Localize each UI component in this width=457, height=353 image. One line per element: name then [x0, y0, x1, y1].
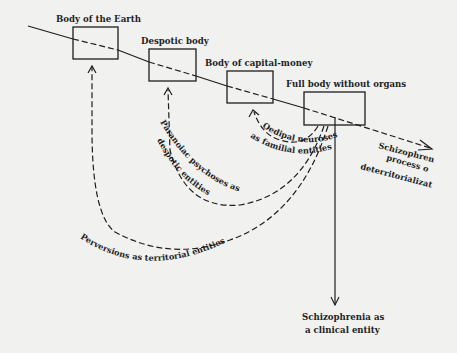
paranoiac-arrowhead — [164, 88, 172, 95]
schizoanalysis-diagram: Body of the Earth Despotic body Body of … — [0, 0, 457, 353]
label-body-of-earth: Body of the Earth — [56, 14, 142, 24]
clinical-line1: Schizophrenia as — [302, 312, 384, 322]
label-capital-money: Body of capital-money — [205, 58, 313, 68]
box-capital-money — [227, 71, 273, 103]
return-curves — [92, 66, 328, 249]
curve-perversions — [92, 66, 328, 249]
box-body-of-earth — [73, 27, 118, 59]
label-full-body: Full body without organs — [286, 79, 406, 89]
body-boxes — [73, 27, 365, 125]
process-line3: deterritorialization — [0, 0, 434, 190]
svg-text:Perversions as territorial ent: Perversions as territorial entities — [79, 231, 227, 262]
perversions-label: Perversions as territorial entities — [79, 231, 227, 262]
clinical-line2: a clinical entity — [305, 325, 381, 335]
box-despotic-body — [149, 49, 196, 81]
main-axis-dashed — [73, 39, 430, 148]
svg-text:deterritorialization: deterritorialization — [0, 0, 434, 190]
label-despotic-body: Despotic body — [141, 36, 210, 46]
